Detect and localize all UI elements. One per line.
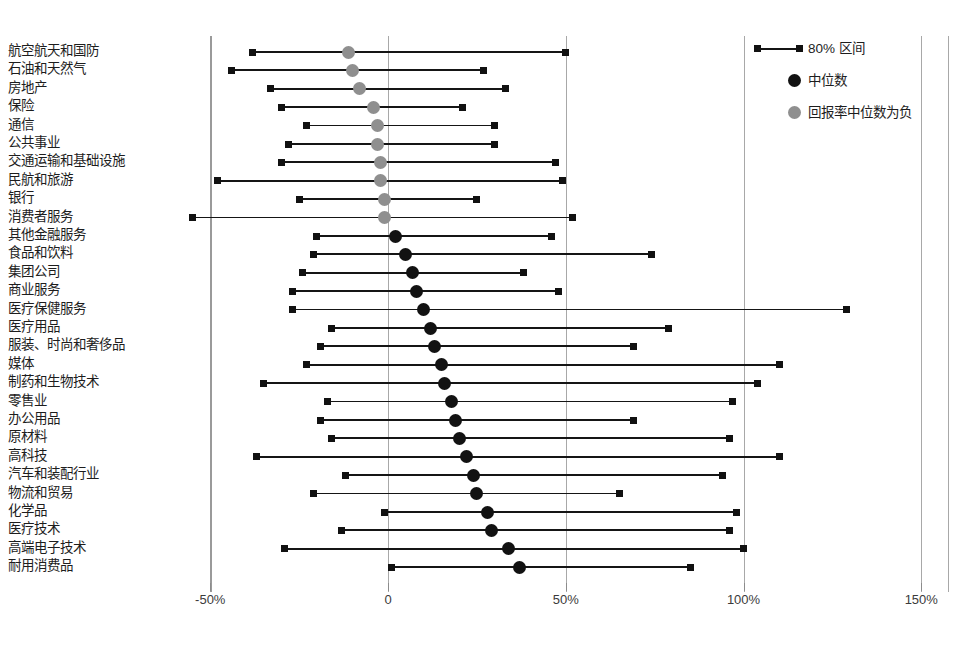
x-tick-label: 100% xyxy=(727,592,760,607)
x-tick-label: 50% xyxy=(553,592,579,607)
legend-range-cap-right xyxy=(796,45,803,52)
legend-item-median-negative[interactable]: 回报率中位数为负 xyxy=(752,104,952,144)
chart-legend: 80% 区间 中位数 回报率中位数为负 xyxy=(752,40,952,154)
legend-median-dot xyxy=(788,74,801,87)
x-tick-mark xyxy=(566,583,567,591)
legend-label-median-negative: 回报率中位数为负 xyxy=(808,104,948,122)
legend-item-median[interactable]: 中位数 xyxy=(752,72,952,94)
x-tick-mark xyxy=(210,583,211,591)
x-tick-label: 0 xyxy=(384,592,391,607)
x-tick-label: -50% xyxy=(195,592,225,607)
x-tick-mark xyxy=(388,583,389,591)
legend-median-negative-dot xyxy=(788,106,801,119)
legend-item-range[interactable]: 80% 区间 xyxy=(752,40,952,62)
x-tick-mark xyxy=(921,583,922,591)
x-tick-mark xyxy=(744,583,745,591)
range-chart: 航空航天和国防石油和天然气房地产保险通信公共事业交通运输和基础设施民航和旅游银行… xyxy=(0,0,976,650)
x-tick-label: 150% xyxy=(905,592,938,607)
legend-label-median: 中位数 xyxy=(808,72,948,90)
legend-label-range: 80% 区间 xyxy=(808,40,948,58)
